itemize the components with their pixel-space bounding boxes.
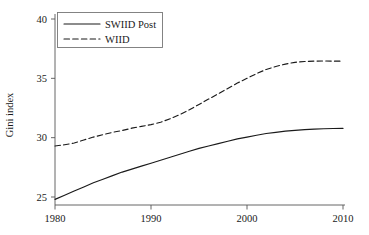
x-tick-label: 2000 xyxy=(237,213,258,224)
y-tick-label: 40 xyxy=(37,14,48,25)
x-tick-label: 1990 xyxy=(141,213,162,224)
y-tick-label: 25 xyxy=(37,192,48,203)
chart-legend: SWIID Post WIID xyxy=(58,13,163,48)
x-tick-label: 2010 xyxy=(333,213,354,224)
series-line-wiid xyxy=(55,61,343,146)
x-tick-label: 1980 xyxy=(45,213,66,224)
chart-canvas: 25303540 1980199020002010 Gini index SWI… xyxy=(0,0,369,235)
legend-label-wiid: WIID xyxy=(105,34,130,45)
y-axis-title: Gini index xyxy=(4,92,15,137)
y-tick-label: 35 xyxy=(37,73,48,84)
series-line-swiid-post xyxy=(55,128,343,199)
y-tick-label: 30 xyxy=(37,132,48,143)
series-lines xyxy=(55,61,343,199)
legend-label-swiid-post: SWIID Post xyxy=(105,19,156,30)
gini-index-line-chart: 25303540 1980199020002010 Gini index SWI… xyxy=(0,0,369,235)
y-axis-ticks: 25303540 xyxy=(37,14,56,203)
x-axis-ticks: 1980199020002010 xyxy=(45,205,354,224)
